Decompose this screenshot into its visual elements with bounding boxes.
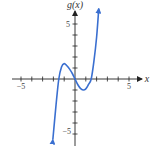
curve-line	[53, 9, 99, 140]
axes	[12, 11, 142, 146]
x-tick-label-5: 5	[127, 82, 131, 91]
curve-g-of-x	[53, 9, 99, 140]
y-tick-label-neg5: −5	[62, 127, 71, 136]
graph: g(x) x −5 5 5 −5	[0, 0, 161, 148]
x-axis-label: x	[144, 73, 150, 84]
x-tick-label-neg5: −5	[17, 82, 26, 91]
y-tick-label-5: 5	[66, 20, 70, 29]
y-axis-label: g(x)	[67, 0, 84, 11]
